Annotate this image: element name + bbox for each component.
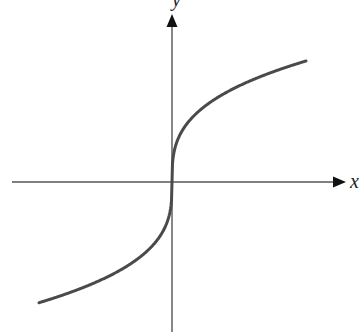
y-axis-label: y [170, 0, 181, 11]
y-axis-arrowhead-icon [167, 14, 178, 27]
x-axis-label: x [349, 170, 359, 192]
function-graph: x y [0, 0, 363, 332]
plot-area: x y [0, 0, 363, 332]
x-axis-arrowhead-icon [333, 177, 346, 188]
